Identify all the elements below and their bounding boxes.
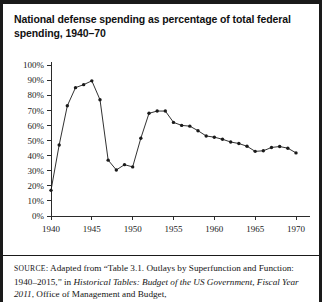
data-point [221, 138, 224, 141]
y-tick-label: 80% [28, 90, 45, 100]
data-point [90, 79, 93, 82]
y-tick-label: 10% [28, 196, 45, 206]
figure-container: National defense spending as percentage … [0, 0, 322, 302]
data-point [139, 137, 142, 140]
figure-title: National defense spending as percentage … [14, 12, 306, 40]
y-tick-label: 20% [28, 181, 45, 191]
data-point [237, 142, 240, 145]
data-point [66, 104, 69, 107]
y-tick-label: 40% [28, 151, 45, 161]
data-point [253, 150, 256, 153]
data-point [262, 149, 265, 152]
y-tick-label: 70% [28, 106, 45, 116]
y-tick-label: 60% [28, 121, 45, 131]
x-axis: 1940194519501955196019651970 [42, 216, 310, 234]
x-tick-label: 1940 [42, 224, 61, 234]
data-point [49, 189, 52, 192]
frame-top-border [0, 0, 322, 4]
data-point [278, 145, 281, 148]
data-point [286, 147, 289, 150]
source-note: SOURCE: Adapted from “Table 3.1. Outlays… [14, 262, 310, 301]
line-chart: 0%10%20%30%40%50%60%70%80%90%100% 194019… [0, 56, 322, 248]
source-text-part2: , Office of Management and Budget, [32, 289, 167, 299]
source-label: SOURCE [14, 264, 46, 273]
y-tick-label: 0% [32, 211, 45, 221]
chart-plot-area: 0%10%20%30%40%50%60%70%80%90%100% 194019… [0, 56, 322, 248]
data-point [74, 86, 77, 89]
x-tick-label: 1955 [165, 224, 184, 234]
data-point [57, 143, 60, 146]
data-point [106, 158, 109, 161]
data-point [196, 129, 199, 132]
data-point [180, 124, 183, 127]
y-tick-label: 30% [28, 166, 45, 176]
y-axis: 0%10%20%30%40%50%60%70%80%90%100% [23, 60, 51, 221]
data-point [115, 168, 118, 171]
data-point [270, 146, 273, 149]
data-point [245, 145, 248, 148]
x-tick-label: 1950 [124, 224, 143, 234]
data-point [229, 140, 232, 143]
data-point [123, 163, 126, 166]
data-point [147, 112, 150, 115]
y-tick-label: 90% [28, 75, 45, 85]
x-tick-label: 1965 [246, 224, 265, 234]
x-tick-label: 1970 [287, 224, 306, 234]
data-point [172, 121, 175, 124]
data-point [98, 98, 101, 101]
data-point [164, 109, 167, 112]
y-tick-label: 50% [28, 136, 45, 146]
data-point [294, 151, 297, 154]
source-divider [3, 255, 319, 256]
data-point [131, 165, 134, 168]
y-tick-label: 100% [23, 60, 45, 70]
data-point [82, 83, 85, 86]
data-point [155, 109, 158, 112]
data-point [188, 124, 191, 127]
x-tick-label: 1960 [205, 224, 224, 234]
series-polyline [51, 81, 296, 190]
data-series [49, 79, 297, 192]
x-tick-label: 1945 [83, 224, 102, 234]
data-point [204, 134, 207, 137]
data-point [213, 135, 216, 138]
